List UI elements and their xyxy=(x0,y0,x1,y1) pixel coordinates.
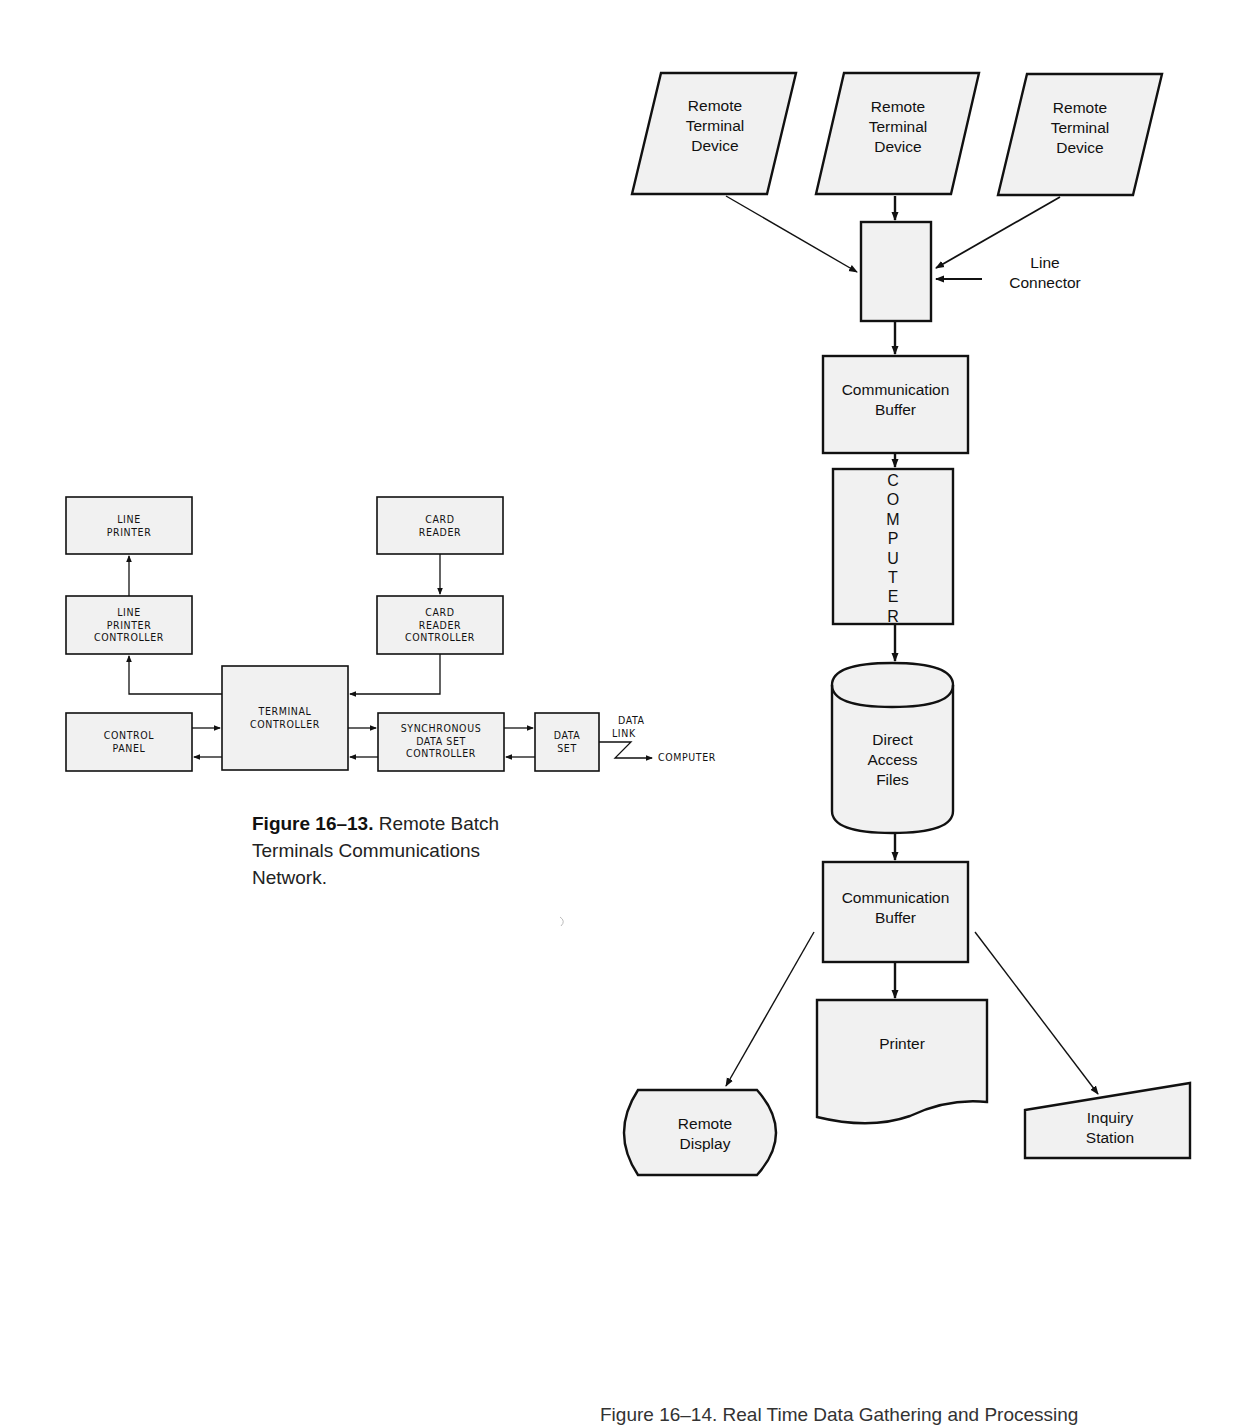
line-connector-shape xyxy=(861,222,931,321)
label-line: Connector xyxy=(1000,273,1090,293)
printer-label: Printer xyxy=(817,1034,987,1054)
label-line: PANEL xyxy=(66,742,192,755)
terminal-controller-label: TERMINAL CONTROLLER xyxy=(222,705,348,730)
label-line: Communication xyxy=(823,888,968,908)
label-line: CARD xyxy=(377,606,503,619)
caption-line: Network. xyxy=(252,867,327,888)
label-line: Communication xyxy=(823,380,968,400)
label-line: Files xyxy=(832,770,953,790)
label-line: CONTROLLER xyxy=(378,747,504,760)
caption-number: Figure 16–13. xyxy=(252,813,373,834)
label-line: Display xyxy=(640,1134,770,1154)
card-reader-label: CARD READER xyxy=(377,513,503,538)
remote-display-label: Remote Display xyxy=(640,1114,770,1154)
label-line: Line xyxy=(1000,253,1090,273)
label-line: Inquiry xyxy=(1045,1108,1175,1128)
caption-line: Terminals Communications xyxy=(252,840,480,861)
label-line: Terminal xyxy=(843,117,953,137)
label-line: Station xyxy=(1045,1128,1175,1148)
data-set-label: DATA SET xyxy=(535,729,599,754)
computer-letter: M xyxy=(833,510,953,529)
scan-mark xyxy=(560,917,563,926)
line-connector-label: Line Connector xyxy=(1000,253,1090,293)
label-line: Buffer xyxy=(823,908,968,928)
comm-buffer-bottom-label: Communication Buffer xyxy=(823,888,968,928)
label-line: DATA xyxy=(535,729,599,742)
label-line: Device xyxy=(660,136,770,156)
label-line: Remote xyxy=(843,97,953,117)
remote-terminal-1-label: Remote Terminal Device xyxy=(660,96,770,155)
label-line: CONTROLLER xyxy=(377,631,503,644)
label-line: Device xyxy=(843,137,953,157)
label-line: LINE xyxy=(66,513,192,526)
direct-access-files-label: Direct Access Files xyxy=(832,730,953,789)
figure-16-13-caption: Figure 16–13. Remote Batch Terminals Com… xyxy=(252,811,582,892)
label-line: Device xyxy=(1025,138,1135,158)
remote-terminal-2-label: Remote Terminal Device xyxy=(843,97,953,156)
control-panel-label: CONTROL PANEL xyxy=(66,729,192,754)
computer-letter: O xyxy=(833,490,953,509)
line-printer-controller-label: LINE PRINTER CONTROLLER xyxy=(66,606,192,644)
comm-buffer-top-label: Communication Buffer xyxy=(823,380,968,420)
computer-letter: C xyxy=(833,471,953,490)
label-line: TERMINAL xyxy=(222,705,348,718)
label-line: PRINTER xyxy=(66,619,192,632)
printer-shape xyxy=(817,1000,987,1123)
label-line: Buffer xyxy=(823,400,968,420)
caption-line: Remote Batch xyxy=(379,813,499,834)
computer-letter: U xyxy=(833,549,953,568)
inquiry-station-label: Inquiry Station xyxy=(1045,1108,1175,1148)
label-line: Direct xyxy=(832,730,953,750)
computer-letter: R xyxy=(833,607,953,626)
label-line: READER xyxy=(377,619,503,632)
label-line: Terminal xyxy=(660,116,770,136)
label-line: Remote xyxy=(660,96,770,116)
label-line: CONTROLLER xyxy=(66,631,192,644)
figure-16-14-caption-clipped: Figure 16–14. Real Time Data Gathering a… xyxy=(600,1404,1078,1426)
sync-data-set-controller-label: SYNCHRONOUS DATA SET CONTROLLER xyxy=(378,722,504,760)
label-line: DATA SET xyxy=(378,735,504,748)
label-line: DATA xyxy=(612,714,656,727)
label-line: LINK xyxy=(612,727,656,740)
computer-letter: T xyxy=(833,568,953,587)
line-printer-label: LINE PRINTER xyxy=(66,513,192,538)
label-line: SET xyxy=(535,742,599,755)
label-line: Access xyxy=(832,750,953,770)
remote-terminal-3-label: Remote Terminal Device xyxy=(1025,98,1135,157)
computer-letter: P xyxy=(833,529,953,548)
data-link-label: DATA LINK xyxy=(612,714,656,739)
label-line: Terminal xyxy=(1025,118,1135,138)
computer-destination-label: COMPUTER xyxy=(658,751,716,764)
computer-label: C O M P U T E R xyxy=(833,471,953,626)
label-line: CARD xyxy=(377,513,503,526)
computer-letter: E xyxy=(833,587,953,606)
label-line: Remote xyxy=(1025,98,1135,118)
label-line: Remote xyxy=(640,1114,770,1134)
label-line: CONTROL xyxy=(66,729,192,742)
label-line: CONTROLLER xyxy=(222,718,348,731)
label-line: LINE xyxy=(66,606,192,619)
label-line: READER xyxy=(377,526,503,539)
label-line: SYNCHRONOUS xyxy=(378,722,504,735)
card-reader-controller-label: CARD READER CONTROLLER xyxy=(377,606,503,644)
label-line: PRINTER xyxy=(66,526,192,539)
